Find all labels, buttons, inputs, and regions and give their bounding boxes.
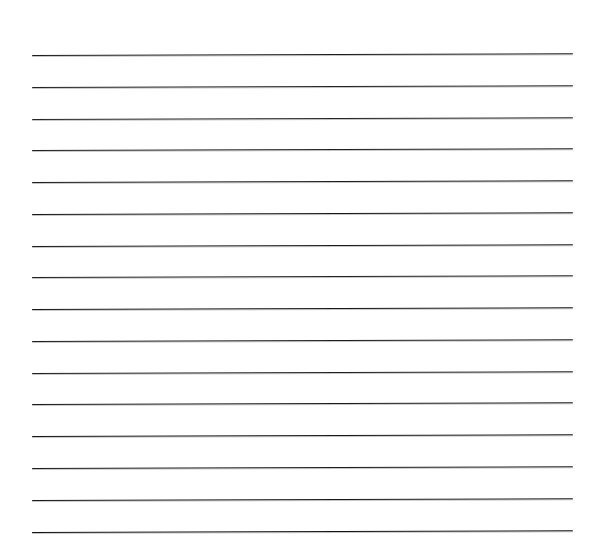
write-line-slot[interactable]: [0, 183, 593, 213]
write-line-slot[interactable]: [0, 215, 593, 246]
write-line-slot[interactable]: [0, 56, 593, 86]
write-line-slot[interactable]: [0, 437, 593, 467]
ruled-writing-area[interactable]: [0, 0, 593, 560]
write-line-slot[interactable]: [0, 88, 593, 119]
write-line-slot[interactable]: [0, 342, 593, 373]
write-line-slot[interactable]: [0, 151, 593, 182]
write-line-slot[interactable]: [0, 405, 593, 436]
write-line-slot[interactable]: [0, 310, 593, 340]
write-line-slot[interactable]: [0, 278, 593, 309]
write-line-slot[interactable]: [0, 469, 593, 500]
write-line-slot[interactable]: [0, 120, 593, 151]
bottom-margin: [0, 533, 593, 560]
write-line-slot[interactable]: [0, 501, 593, 532]
write-line-slot[interactable]: [0, 247, 593, 277]
ruled-paper-sheet: [0, 0, 593, 560]
write-line-slot[interactable]: [0, 374, 593, 404]
